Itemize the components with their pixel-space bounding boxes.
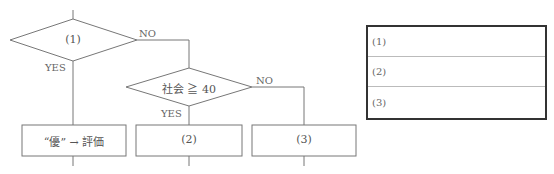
answer-row-3[interactable]: (3) <box>368 87 545 118</box>
decision2-no-label: NO <box>256 75 273 86</box>
decision2-yes-label: YES <box>161 108 182 119</box>
answer-table: (1) (2) (3) <box>366 25 547 120</box>
decision1-no-label: NO <box>139 28 156 39</box>
answer-row-label: (3) <box>372 97 386 108</box>
answer-row-label: (1) <box>372 36 386 47</box>
answer-row-2[interactable]: (2) <box>368 57 545 87</box>
decision1-yes-label: YES <box>45 62 66 73</box>
process3-label: (3) <box>252 133 356 146</box>
process2-label: (2) <box>136 133 242 146</box>
answer-row-1[interactable]: (1) <box>368 27 545 57</box>
answer-row-label: (2) <box>372 66 386 77</box>
decision1-label: (1) <box>58 33 88 46</box>
process1-label: “優” → 評価 <box>22 133 126 149</box>
decision2-label: 社会 ≧ 40 <box>154 80 224 96</box>
